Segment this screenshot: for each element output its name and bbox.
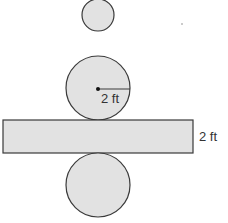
radius-label: 2 ft (101, 91, 119, 106)
small-circle (82, 0, 114, 31)
stray-mark (181, 23, 183, 25)
center-dot (96, 87, 100, 91)
bottom-circle-base (66, 153, 130, 217)
lateral-surface-rectangle (3, 120, 193, 153)
height-label: 2 ft (199, 129, 217, 144)
cylinder-net-diagram: 2 ft 2 ft (0, 0, 228, 223)
